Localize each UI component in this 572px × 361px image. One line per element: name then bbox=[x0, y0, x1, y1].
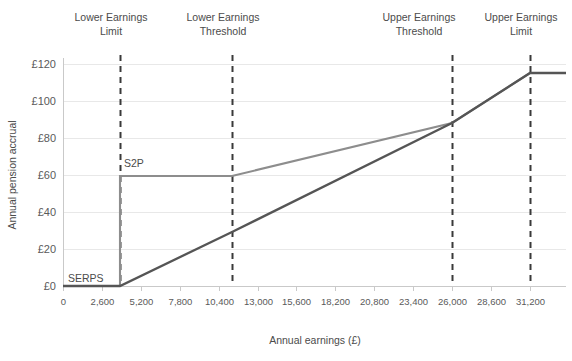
x-tick-label-18200: 18,200 bbox=[321, 296, 350, 307]
marker-label-upper-earnings-limit-line2: Limit bbox=[510, 25, 532, 37]
y-tick-label-40: £40 bbox=[38, 206, 56, 218]
data-series bbox=[63, 73, 566, 286]
x-tick-label-23400: 23,400 bbox=[399, 296, 428, 307]
x-tick-labels: 0 2,600 5,200 7,800 10,400 13,000 15,600… bbox=[61, 296, 545, 307]
series-line-s2p bbox=[63, 73, 566, 286]
x-tick-label-26000: 26,000 bbox=[438, 296, 467, 307]
threshold-markers bbox=[121, 55, 531, 286]
x-tick-label-15600: 15,600 bbox=[282, 296, 311, 307]
x-tick-label-10400: 10,400 bbox=[205, 296, 234, 307]
x-tick-label-7800: 7,800 bbox=[169, 296, 193, 307]
x-axis-title: Annual earnings (£) bbox=[269, 334, 361, 346]
marker-label-upper-earnings-threshold-line1: Upper Earnings bbox=[383, 11, 456, 23]
x-tick-label-20800: 20,800 bbox=[360, 296, 389, 307]
y-tick-label-20: £20 bbox=[38, 243, 56, 255]
threshold-marker-labels: Lower Earnings Limit Lower Earnings Thre… bbox=[75, 11, 558, 37]
pension-accrual-chart: £120 £100 £80 £60 £40 £20 £0 0 2,600 5,2… bbox=[0, 0, 572, 361]
x-tick-label-0: 0 bbox=[61, 296, 66, 307]
s2p-label: S2P bbox=[124, 157, 144, 169]
marker-label-lower-earnings-threshold-line1: Lower Earnings bbox=[187, 11, 260, 23]
y-tick-label-120: £120 bbox=[32, 58, 56, 70]
x-tick-label-31200: 31,200 bbox=[516, 296, 545, 307]
y-tick-labels: £120 £100 £80 £60 £40 £20 £0 bbox=[32, 58, 56, 292]
x-tick-label-13000: 13,000 bbox=[244, 296, 273, 307]
y-axis-title: Annual pension accrual bbox=[6, 120, 18, 229]
axis-titles: Annual earnings (£) Annual pension accru… bbox=[6, 120, 361, 346]
serps-label: SERPS bbox=[68, 272, 104, 284]
x-tick-label-5200: 5,200 bbox=[130, 296, 154, 307]
y-tick-label-60: £60 bbox=[38, 169, 56, 181]
series-line-serps bbox=[63, 73, 566, 286]
marker-label-lower-earnings-limit-line1: Lower Earnings bbox=[75, 11, 148, 23]
x-tick-label-28600: 28,600 bbox=[477, 296, 506, 307]
y-tick-label-80: £80 bbox=[38, 132, 56, 144]
marker-label-lower-earnings-threshold-line2: Threshold bbox=[200, 25, 247, 37]
y-tick-label-100: £100 bbox=[32, 95, 56, 107]
chart-svg: £120 £100 £80 £60 £40 £20 £0 0 2,600 5,2… bbox=[0, 0, 572, 361]
marker-label-upper-earnings-limit-line1: Upper Earnings bbox=[485, 11, 558, 23]
x-tick-label-2600: 2,600 bbox=[91, 296, 115, 307]
marker-label-lower-earnings-limit-line2: Limit bbox=[100, 25, 122, 37]
y-tick-label-0: £0 bbox=[44, 280, 56, 292]
marker-label-upper-earnings-threshold-line2: Threshold bbox=[396, 25, 443, 37]
